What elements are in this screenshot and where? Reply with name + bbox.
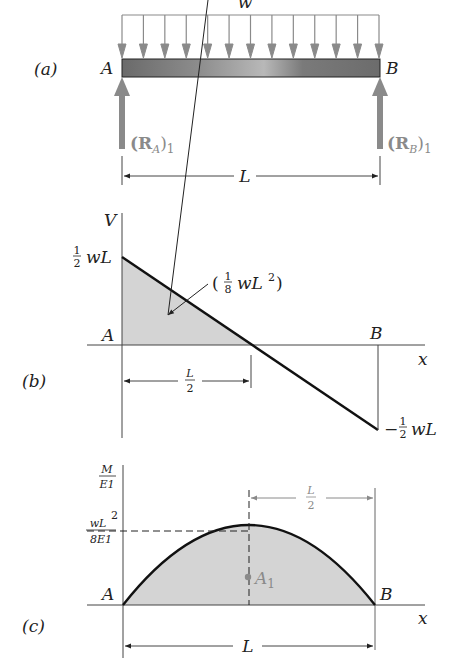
svg-text:2: 2 — [74, 257, 81, 270]
distributed-load-arrows — [118, 15, 383, 58]
centroid-point — [245, 574, 251, 580]
svg-text:E1: E1 — [98, 478, 114, 491]
half-span-label-b: L 2 — [185, 367, 195, 395]
part-a-loaded-beam: (a) w A B (RA)1 (RB)1 L — [34, 0, 432, 186]
half-span-label-c: L 2 — [306, 484, 316, 512]
part-b-tag: (b) — [22, 371, 46, 391]
point-a-label-c: A — [100, 584, 114, 604]
x-axis-label-c: x — [418, 608, 428, 628]
svg-text:2: 2 — [308, 499, 315, 512]
beam-diagram-figure: (a) w A B (RA)1 (RB)1 L — [0, 0, 449, 671]
svg-text:2: 2 — [268, 271, 275, 284]
part-c-tag: (c) — [22, 616, 45, 636]
svg-text:8: 8 — [225, 283, 232, 296]
distributed-load-label: w — [238, 0, 253, 12]
support-a-label: A — [99, 58, 113, 78]
reaction-a-label: (RA)1 — [130, 133, 174, 156]
svg-text:8E1: 8E1 — [90, 533, 112, 546]
svg-text:L: L — [185, 367, 193, 380]
m-axis-label: M E1 — [98, 463, 116, 491]
beam — [122, 59, 380, 77]
span-dimension-a — [122, 156, 380, 185]
svg-text:wL: wL — [411, 419, 437, 439]
point-a-label-b: A — [100, 325, 114, 345]
svg-text:wL: wL — [86, 247, 112, 267]
svg-text:): ) — [276, 273, 283, 293]
reaction-arrow-b — [372, 77, 388, 149]
svg-text:wL: wL — [237, 273, 263, 293]
support-b-label: B — [385, 58, 399, 78]
part-a-tag: (a) — [34, 59, 57, 79]
span-label-a: L — [238, 166, 250, 186]
svg-text:1: 1 — [74, 244, 81, 257]
span-label-c: L — [241, 636, 253, 656]
v-axis-label: V — [104, 210, 118, 230]
svg-text:wL: wL — [90, 517, 107, 530]
point-b-label-b: B — [369, 323, 383, 343]
shear-min-value: − 1 2 wL — [384, 415, 437, 441]
svg-text:M: M — [100, 463, 113, 476]
reaction-arrow-a — [114, 77, 130, 149]
svg-text:2: 2 — [187, 382, 194, 395]
moment-peak-value: wL 2 8E1 — [86, 509, 118, 546]
point-b-label-c: B — [379, 584, 393, 604]
svg-text:1: 1 — [400, 415, 407, 428]
svg-text:−: − — [384, 419, 398, 439]
svg-text:(: ( — [212, 273, 219, 293]
x-axis-label-b: x — [418, 349, 428, 369]
reaction-b-label: (RB)1 — [387, 133, 432, 156]
svg-text:2: 2 — [400, 428, 407, 441]
shear-max-value: 1 2 wL — [73, 244, 112, 270]
svg-text:1: 1 — [225, 270, 232, 283]
svg-text:2: 2 — [111, 509, 118, 522]
svg-text:L: L — [306, 484, 314, 497]
part-c-moment-diagram: (c) A1 A B x M E1 wL 2 8E1 — [22, 463, 428, 658]
